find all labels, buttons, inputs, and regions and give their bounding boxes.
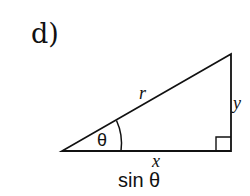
hypotenuse-label: r: [139, 83, 147, 103]
angle-label: θ: [97, 130, 107, 150]
adjacent-label: x: [151, 151, 160, 171]
right-triangle-diagram: θ r y x sin θ: [0, 0, 250, 196]
right-angle-marker: [216, 137, 231, 151]
caption: sin θ: [118, 169, 160, 191]
triangle-outline: [62, 54, 231, 151]
angle-arc: [117, 121, 122, 152]
opposite-label: y: [231, 93, 241, 113]
